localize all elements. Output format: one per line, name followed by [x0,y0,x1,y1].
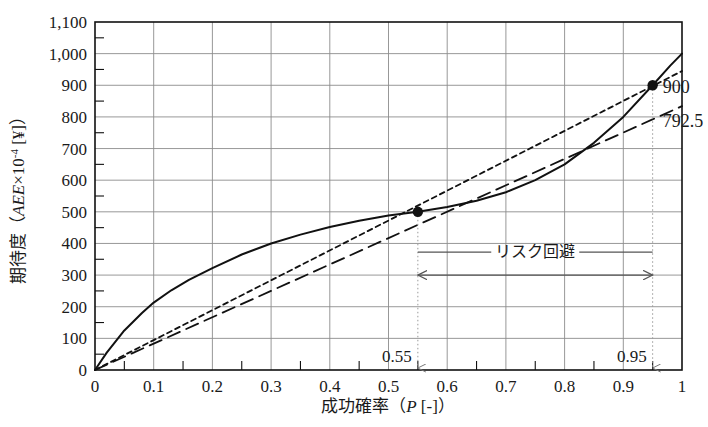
x-tick-label: 0.7 [495,377,517,396]
x-tick-label: 1 [678,377,687,396]
y-tick-label: 0 [79,361,88,380]
y-tick-label: 1,000 [49,45,87,64]
x-tick-label: 0 [91,377,100,396]
x-axis-title-paren-open: （ [389,397,406,416]
svg-text:期待度（AEE×10-4 [¥]）: 期待度（AEE×10-4 [¥]） [8,108,28,284]
y-tick-label: 1,100 [49,13,87,32]
chart-figure: リスク回避900792.50.550.95 00.10.20.30.40.50.… [0,0,708,427]
y-axis-title: 期待度（AEE×10-4 [¥]） [8,108,28,284]
x-tick-label: 0.8 [554,377,575,396]
x-axis-title-main: 成功確率 [321,397,389,416]
x-tick-label: 0.3 [260,377,281,396]
y-tick-label: 800 [62,108,88,127]
y-tick-label: 300 [62,266,88,285]
x-tick-label: 0.4 [319,377,341,396]
x-tick-label: 0.5 [378,377,399,396]
y-axis-title-unit: [¥] [9,125,28,149]
y-axis-title-symbol: AEE [9,184,28,217]
y-axis-title-mult: ×10 [9,158,28,185]
x-axis-title-paren-close: ） [438,397,455,416]
x-tick-label: 0.9 [613,377,634,396]
x-axis-title-unit: [-] [417,397,438,416]
value-label-792-5: 792.5 [663,111,704,131]
y-tick-label: 100 [62,329,88,348]
chart-canvas: リスク回避900792.50.550.95 00.10.20.30.40.50.… [0,0,708,427]
y-axis-title-paren-open: （ [9,216,28,233]
y-tick-label: 400 [62,234,88,253]
y-tick-label: 900 [62,76,88,95]
x-tick-label: 0.1 [143,377,164,396]
x-tick-label: 0.2 [202,377,223,396]
x-axis-title-symbol: P [405,397,416,416]
y-axis-title-paren-close: ） [9,108,28,125]
y-axis-title-main: 期待度 [9,233,28,284]
marker-point-low [413,207,423,217]
y-tick-label: 600 [62,171,88,190]
y-tick-label: 200 [62,298,88,317]
marker-point-high [647,80,657,90]
x-tick-label: 0.6 [437,377,458,396]
guide-value-label-guide-0-95: 0.95 [617,347,647,366]
value-label-900: 900 [663,77,690,97]
guide-value-label-guide-0-55: 0.55 [382,347,412,366]
y-tick-label: 700 [62,140,88,159]
y-tick-label: 500 [62,203,88,222]
svg-text:成功確率（P [-]）: 成功確率（P [-]） [321,397,455,416]
risk-aversion-label: リスク回避 [495,242,575,261]
x-axis-title: 成功確率（P [-]） [321,397,455,416]
